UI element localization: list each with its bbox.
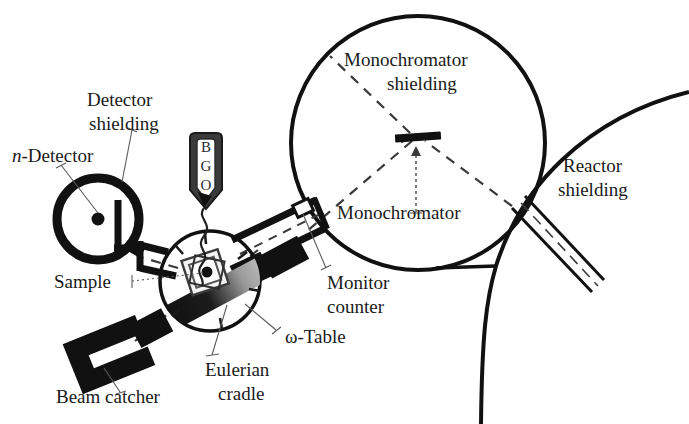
label-omega-table: ω-Table (285, 326, 346, 347)
leader-arrowhead-monochromator (411, 146, 421, 156)
label-monochromator-shielding-line1: Monochromator (344, 49, 468, 70)
detector-collimator-arm (114, 200, 176, 276)
beam-tube-wall-upper (525, 196, 604, 280)
label-monochromator-shielding-line2: shielding (387, 73, 457, 94)
bgo-letter-b: B (201, 139, 211, 155)
label-n-detector: n-Detector (12, 145, 94, 166)
monochromator-crystal-group (395, 131, 441, 143)
shield-connector-stub (436, 266, 496, 268)
detector-arm-lower (140, 268, 176, 276)
label-n-detector-italic-n: n (12, 145, 22, 166)
label-monitor-counter-line1: Monitor (327, 272, 390, 293)
leader-detector-shielding (122, 130, 132, 182)
label-detector-shielding-line2: shielding (89, 113, 159, 134)
label-detector-shielding-line1: Detector (87, 89, 153, 110)
beam-tube-wall-lower (512, 208, 592, 292)
n-detector-assembly (57, 178, 146, 260)
n-detector-core (92, 213, 105, 226)
bgo-letter-o: O (201, 177, 212, 193)
label-monitor-counter-line2: counter (327, 296, 385, 317)
incident-beam-dashed (425, 141, 512, 206)
label-reactor-shielding-line1: Reactor (563, 155, 623, 176)
label-monochromator: Monochromator (337, 202, 461, 223)
diagram-canvas: B G O (0, 0, 689, 424)
neutron-diffractometer-schematic: B G O (0, 0, 689, 424)
beam-tube-centerline (521, 203, 598, 286)
bgo-letter-g: G (201, 158, 212, 174)
label-sample: Sample (54, 271, 111, 292)
label-eulerian-cradle-line1: Eulerian (205, 359, 270, 380)
leader-omega-table (245, 304, 276, 330)
label-n-detector-rest: -Detector (22, 145, 94, 166)
leader-tick-monitor-counter (321, 265, 331, 270)
label-beam-catcher: Beam catcher (56, 386, 161, 407)
label-reactor-shielding-line2: shielding (558, 179, 628, 200)
sample-crystal-dot (202, 267, 213, 278)
label-eulerian-cradle-line2: cradle (218, 383, 264, 404)
